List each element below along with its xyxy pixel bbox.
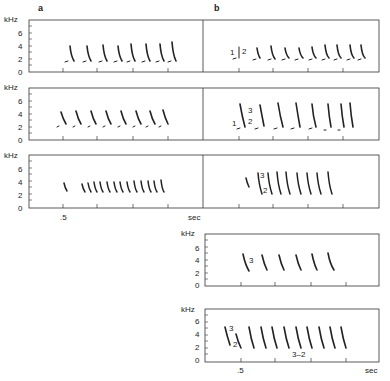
plot-frame [29, 155, 379, 208]
y-minor-ticks [29, 26, 32, 65]
annotation-1: 1 [230, 48, 235, 57]
y-tick-2: 2 [195, 269, 200, 278]
annotation-2: 2 [263, 186, 268, 195]
annotation-3-2: 3–2 [292, 350, 306, 359]
spectrogram-figure: a b kHz 6 4 2 0 1 2 kHz 6 4 2 0 [0, 0, 390, 381]
x-ticks [241, 282, 346, 286]
notes-b1 [233, 45, 365, 60]
plot-frame [29, 88, 379, 140]
y-tick-2: 2 [195, 343, 200, 352]
row-3: kHz 6 4 2 0 3 2 .5 sec [4, 151, 379, 222]
y-axis-label: kHz [4, 83, 18, 92]
y-tick-4: 4 [195, 330, 200, 339]
y-tick-6: 6 [18, 29, 23, 38]
y-tick-6: 6 [195, 317, 200, 326]
annotation-2: 2 [242, 47, 247, 56]
annotation-3: 3 [260, 171, 265, 180]
y-tick-2: 2 [18, 123, 23, 132]
y-tick-4: 4 [18, 110, 23, 119]
y-tick-0: 0 [18, 204, 23, 213]
notes-b5 [225, 327, 346, 348]
row-2: kHz 6 4 2 0 1 3 2 [4, 83, 379, 145]
y-tick-0: 0 [18, 68, 23, 77]
notes-a3 [64, 180, 164, 192]
y-minor-ticks [205, 315, 208, 354]
x-tick-label-05: .5 [237, 366, 244, 375]
x-axis-label: sec [188, 213, 200, 222]
y-minor-ticks [29, 161, 32, 200]
y-tick-6: 6 [18, 165, 23, 174]
annotation-3: 3 [229, 324, 234, 333]
plot-frame [205, 234, 379, 286]
plot-frame [29, 20, 379, 72]
y-axis-label: kHz [181, 229, 195, 238]
notes-b3 [246, 172, 332, 194]
y-tick-0: 0 [195, 356, 200, 365]
y-minor-ticks [29, 94, 32, 133]
y-tick-2: 2 [18, 191, 23, 200]
annotation-2: 2 [248, 117, 253, 126]
x-tick-label-05: .5 [60, 213, 67, 222]
y-tick-0: 0 [18, 136, 23, 145]
y-minor-ticks [205, 240, 208, 279]
notes-b2 [237, 103, 353, 130]
y-tick-4: 4 [18, 42, 23, 51]
row-1: kHz 6 4 2 0 1 2 [4, 15, 379, 77]
panel-label-b: b [214, 3, 220, 13]
annotation-3: 3 [248, 106, 253, 115]
notes-a2 [57, 110, 168, 127]
y-tick-6: 6 [195, 244, 200, 253]
row-4: kHz 6 4 2 0 3 [181, 229, 379, 290]
panel-label-a: a [38, 3, 44, 13]
y-tick-6: 6 [18, 97, 23, 106]
annotation-1: 1 [232, 119, 237, 128]
y-tick-4: 4 [195, 256, 200, 265]
notes-a1 [65, 42, 176, 62]
y-axis-label: kHz [181, 305, 195, 314]
notes-b4 [243, 253, 334, 271]
y-tick-0: 0 [195, 281, 200, 290]
y-axis-label: kHz [4, 15, 18, 24]
y-axis-label: kHz [4, 151, 18, 160]
row-5: kHz 6 4 2 0 3 2 3–2 .5 sec [181, 305, 379, 375]
y-tick-2: 2 [18, 55, 23, 64]
y-tick-4: 4 [18, 178, 23, 187]
annotation-2: 2 [233, 340, 238, 349]
annotation-3: 3 [249, 256, 254, 265]
x-axis-label: sec [365, 366, 377, 375]
